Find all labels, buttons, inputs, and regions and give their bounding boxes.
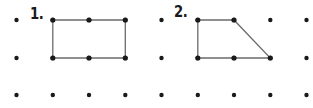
problem-number-2: 2.: [174, 5, 187, 20]
grid-dot-r2-c1: [51, 93, 55, 97]
grid-dot-r2-c2: [87, 93, 91, 97]
rectangle-vertex-dot-5: [86, 55, 91, 60]
grid-dot-r1-c0: [14, 56, 18, 60]
grid-dot-r2-c3: [123, 93, 127, 97]
rectangle-vertex-dot-1: [123, 17, 128, 22]
shape-trapezoid: [198, 20, 270, 58]
shape-layer: [53, 20, 270, 58]
grid-dot-r2-c7: [268, 93, 272, 97]
problem-number-1: 1.: [30, 7, 43, 22]
grid-dot-r1-c8: [304, 56, 308, 60]
rectangle-vertex-dot-3: [50, 55, 55, 60]
grid-dot-r0-c8: [304, 18, 308, 22]
grid-dot-r2-c5: [196, 93, 200, 97]
grid-dot-r0-c0: [14, 18, 18, 22]
shape-rectangle: [53, 20, 126, 58]
rectangle-vertex-dot-2: [123, 55, 128, 60]
trapezoid-vertex-dot-2: [268, 55, 273, 60]
grid-dot-r2-c6: [232, 93, 236, 97]
grid-dot-r1-c4: [159, 56, 163, 60]
grid-dot-r2-c0: [14, 93, 18, 97]
dot-grid-layer: [14, 17, 308, 97]
geometry-worksheet: 1. 2.: [0, 0, 313, 108]
grid-dot-r2-c4: [159, 93, 163, 97]
trapezoid-vertex-dot-4: [231, 55, 236, 60]
trapezoid-vertex-dot-1: [231, 17, 236, 22]
grid-dot-r0-c4: [159, 18, 163, 22]
geoboard-canvas: [0, 0, 313, 108]
grid-dot-r0-c7: [268, 18, 272, 22]
trapezoid-vertex-dot-0: [195, 17, 200, 22]
rectangle-vertex-dot-0: [50, 17, 55, 22]
grid-dot-r2-c8: [304, 93, 308, 97]
trapezoid-vertex-dot-3: [195, 55, 200, 60]
rectangle-vertex-dot-4: [86, 17, 91, 22]
